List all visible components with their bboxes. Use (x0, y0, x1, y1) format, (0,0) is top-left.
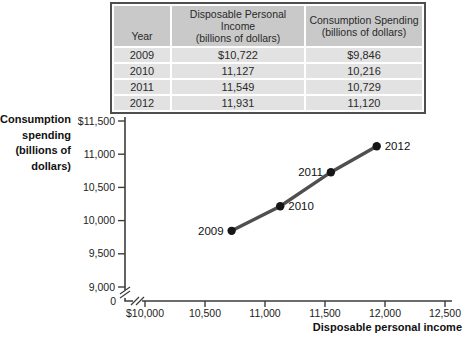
y-axis-title-line: Consumption (0, 113, 71, 125)
data-point (276, 202, 284, 210)
y-tick-label: 10,000 (83, 214, 115, 226)
cell-year: 2009 (114, 48, 170, 62)
x-tick-label: $10,000 (126, 307, 164, 319)
data-point-year-label: 2011 (298, 166, 323, 178)
col-header-year: Year (114, 6, 170, 46)
table-row: 2012 11,931 11,120 (114, 96, 422, 110)
cell-income: 11,127 (172, 64, 304, 78)
data-point-year-label: 2010 (288, 200, 314, 212)
col-header-income-label: Disposable Personal Income (190, 8, 286, 32)
cell-year: 2010 (114, 64, 170, 78)
cell-spending: 11,120 (306, 96, 422, 110)
col-header-year-label: Year (131, 30, 152, 42)
x-tick-label: 11,000 (249, 307, 280, 319)
y-tick-label: 9,000 (89, 281, 115, 293)
income-consumption-table: Year Disposable Personal Income (billion… (110, 2, 426, 114)
cell-income: 11,931 (172, 96, 304, 110)
data-point-year-label: 2009 (198, 225, 224, 237)
figure-canvas: $11,50011,00010,50010,0009,5009,000$10,0… (0, 0, 465, 338)
cell-income: $10,722 (172, 48, 304, 62)
y-axis-title-line: (billions of (15, 144, 71, 156)
data-table-container: Year Disposable Personal Income (billion… (110, 2, 422, 114)
data-point-year-label: 2012 (385, 140, 411, 152)
x-tick-label: 12,000 (369, 307, 401, 319)
data-point (373, 142, 381, 150)
x-tick-label: 12,500 (429, 307, 461, 319)
table-row: 2009 $10,722 $9,846 (114, 48, 422, 62)
cell-spending: 10,729 (306, 80, 422, 94)
col-header-income-sublabel: (billions of dollars) (172, 32, 304, 44)
col-header-spending: Consumption Spending (billions of dollar… (306, 6, 422, 46)
y-tick-label: $11,500 (78, 115, 115, 127)
cell-spending: 10,216 (306, 64, 422, 78)
consumption-line (232, 146, 377, 231)
origin-label: 0 (110, 295, 116, 307)
data-point (327, 168, 335, 176)
y-axis-title-line: dollars) (31, 160, 71, 172)
cell-year: 2011 (114, 80, 170, 94)
y-axis-title-line: spending (22, 129, 71, 141)
cell-income: 11,549 (172, 80, 304, 94)
x-axis-title: Disposable personal income (313, 321, 462, 333)
table-row: 2011 11,549 10,729 (114, 80, 422, 94)
y-tick-label: 11,000 (84, 148, 115, 160)
table-header-row: Year Disposable Personal Income (billion… (114, 6, 422, 46)
col-header-spending-label: Consumption Spending (309, 14, 418, 26)
x-tick-label: 11,500 (309, 307, 340, 319)
col-header-spending-sublabel: (billions of dollars) (306, 26, 422, 38)
cell-spending: $9,846 (306, 48, 422, 62)
table-row: 2010 11,127 10,216 (114, 64, 422, 78)
cell-year: 2012 (114, 96, 170, 110)
x-tick-label: 10,500 (189, 307, 221, 319)
col-header-income: Disposable Personal Income (billions of … (172, 6, 304, 46)
y-tick-label: 9,500 (89, 247, 115, 259)
y-tick-label: 10,500 (83, 181, 115, 193)
data-point (227, 227, 235, 235)
